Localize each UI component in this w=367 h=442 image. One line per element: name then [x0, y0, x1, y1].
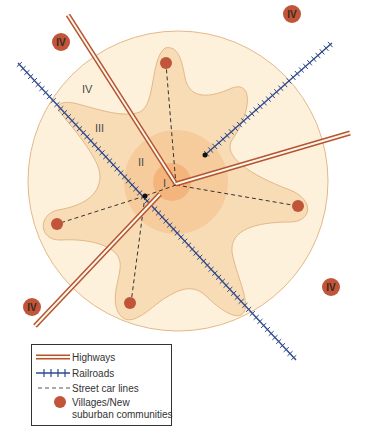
rail-station-dot: [203, 153, 208, 158]
outlying-community: IV: [23, 298, 41, 316]
legend-label: Street car lines: [72, 383, 139, 394]
zone-label-ii: II: [138, 156, 144, 168]
legend: Highways Railroads Street car lines Vill…: [31, 344, 172, 426]
railroad-symbol-icon: [36, 368, 70, 378]
village-marker: [51, 218, 63, 230]
legend-label: Highways: [72, 352, 115, 363]
highway-symbol-icon: [36, 352, 70, 362]
streetcar-symbol-icon: [36, 383, 70, 393]
zone-label-iv: IV: [82, 83, 93, 95]
village-symbol-icon: [36, 394, 70, 410]
rail-station-dot: [143, 194, 148, 199]
outlying-label: IV: [287, 9, 297, 20]
village-marker: [124, 297, 136, 309]
outlying-community: IV: [52, 33, 70, 51]
zone-label-iii: III: [95, 122, 104, 134]
outlying-label: IV: [56, 37, 66, 48]
outlying-community: IV: [283, 5, 301, 23]
village-marker: [160, 57, 172, 69]
village-marker: [292, 200, 304, 212]
outlying-community: IV: [322, 278, 340, 296]
legend-label: Villages/New: [72, 397, 130, 408]
outlying-label: IV: [27, 302, 37, 313]
zone-label-i: I: [163, 177, 166, 189]
legend-label-line2: suburban communities: [72, 409, 173, 420]
legend-label: Railroads: [72, 368, 114, 379]
outlying-label: IV: [326, 282, 336, 293]
